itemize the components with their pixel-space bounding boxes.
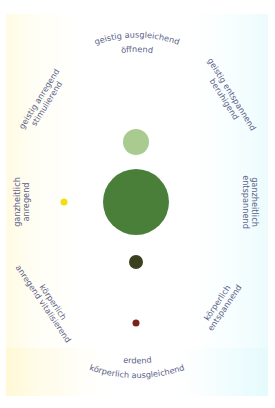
label-right-line2: entspannend <box>241 175 251 229</box>
light-green-circle <box>123 129 149 155</box>
label-lower-left-line2: anregend vitalisierend <box>14 263 74 345</box>
page: geistig ausgleichend öffnend geistig ent… <box>0 0 275 408</box>
label-upper-right-line1: geistig entspannend <box>205 56 258 132</box>
label-bottom-line1: erdend <box>123 355 152 366</box>
label-top-line2: öffnend <box>120 44 153 55</box>
orientation-diagram: geistig ausgleichend öffnend geistig ent… <box>0 0 275 408</box>
brown-dot <box>133 320 140 327</box>
label-left-line2: anregend <box>21 182 31 221</box>
large-green-circle <box>103 169 169 235</box>
dark-olive-circle <box>129 255 143 269</box>
yellow-dot <box>61 199 68 206</box>
